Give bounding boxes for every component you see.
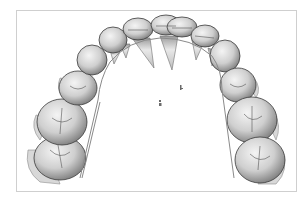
tooth (77, 45, 107, 75)
tooth (210, 40, 240, 72)
tooth (235, 137, 285, 183)
tooth (59, 71, 97, 105)
dental-arch-render (0, 0, 308, 201)
center-artifacts (159, 85, 183, 106)
teeth (34, 15, 285, 183)
tooth (123, 18, 153, 40)
